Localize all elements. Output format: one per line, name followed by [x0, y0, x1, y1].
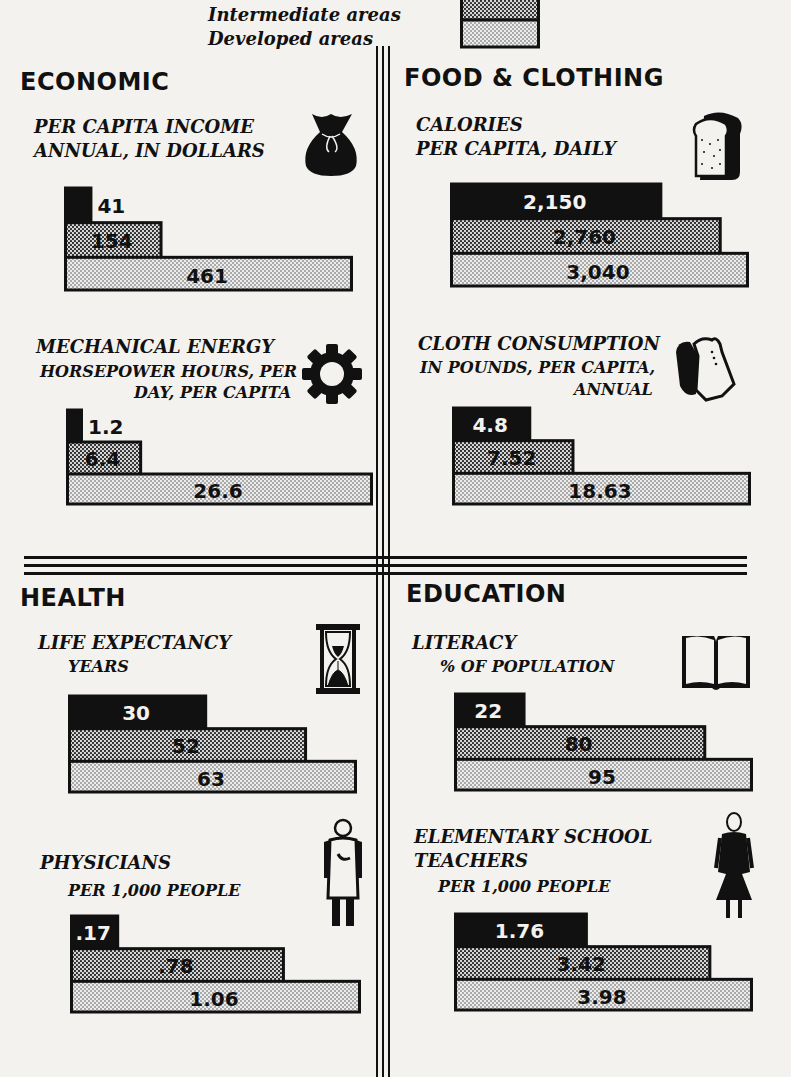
section-title-economic: ECONOMIC — [20, 68, 169, 96]
bar-label-underdeveloped: .17 — [75, 921, 110, 945]
physician-icon — [322, 818, 364, 928]
book-icon — [680, 632, 752, 694]
bar-label-intermediate: 7.52 — [487, 446, 536, 470]
bar-label-intermediate: .78 — [158, 954, 193, 978]
bar-underdeveloped — [68, 410, 82, 444]
section-title-health: HEALTH — [20, 584, 126, 612]
bar-label-underdeveloped: 4.8 — [472, 413, 507, 437]
metric-title-physicians: PHYSICIANS — [40, 852, 171, 874]
metric-subtitle-physicians: PER 1,000 PEOPLE — [68, 880, 240, 901]
bar-label-developed: 461 — [186, 264, 228, 288]
chart-teachers: 1.763.423.98 — [454, 912, 754, 1010]
legend-label-intermediate: Intermediate areas — [208, 4, 401, 26]
metric-subtitle-income: ANNUAL, IN DOLLARS — [34, 140, 265, 162]
bar-label-developed: 1.06 — [189, 987, 238, 1011]
metric-subtitle2-energy: DAY, PER CAPITA — [134, 382, 291, 403]
bar-label-underdeveloped: 30 — [122, 701, 150, 725]
legend-swatches — [460, 0, 540, 50]
bar-label-developed: 3.98 — [577, 985, 626, 1009]
bar-label-intermediate: 80 — [565, 732, 593, 756]
metric-title-energy: MECHANICAL ENERGY — [36, 336, 274, 358]
bar-label-intermediate: 154 — [91, 229, 133, 253]
metric-subtitle2-cloth: ANNUAL — [574, 379, 653, 400]
bar-label-intermediate: 3.42 — [556, 952, 605, 976]
metric-title-calories: CALORIES — [416, 114, 523, 136]
gear-icon — [300, 342, 364, 406]
bar-label-developed: 63 — [197, 767, 225, 791]
metric-subtitle-teachers: PER 1,000 PEOPLE — [438, 876, 610, 897]
chart-cloth: 4.87.5218.63 — [452, 406, 752, 504]
bar-label-underdeveloped: 2,150 — [523, 190, 586, 214]
bar-label-intermediate: 2,760 — [553, 225, 616, 249]
bar-label-developed: 3,040 — [566, 260, 629, 284]
clothing-icon — [672, 334, 738, 404]
metric-subtitle-calories: PER CAPITA, DAILY — [416, 138, 616, 160]
metric-title-life: LIFE EXPECTANCY — [38, 632, 231, 654]
bar-label-underdeveloped: 22 — [474, 699, 502, 723]
bread-icon — [690, 110, 744, 182]
bar-label-underdeveloped: 1.2 — [88, 415, 123, 439]
bar-underdeveloped — [66, 188, 91, 225]
teacher-icon — [712, 812, 756, 922]
metric-subtitle-life: YEARS — [68, 656, 129, 677]
chart-income: 41154461 — [64, 186, 354, 290]
metric-title2-teachers: TEACHERS — [414, 850, 528, 872]
chart-calories: 2,1502,7603,040 — [450, 182, 750, 286]
bar-label-intermediate: 6.4 — [85, 447, 120, 471]
legend-swatch-developed — [462, 20, 539, 47]
metric-subtitle-cloth: IN POUNDS, PER CAPITA, — [420, 357, 655, 378]
metric-subtitle-energy: HORSEPOWER HOURS, PER — [40, 361, 297, 382]
bar-label-intermediate: 52 — [172, 734, 200, 758]
bar-label-developed: 18.63 — [568, 479, 631, 503]
section-title-food-clothing: FOOD & CLOTHING — [404, 64, 664, 92]
bar-label-underdeveloped: 41 — [97, 194, 125, 218]
bar-label-developed: 26.6 — [193, 479, 242, 503]
metric-title-income: PER CAPITA INCOME — [34, 116, 254, 138]
section-title-education: EDUCATION — [406, 580, 566, 608]
legend-swatch-intermediate — [462, 0, 539, 20]
bar-label-developed: 95 — [588, 765, 616, 789]
metric-subtitle-literacy: % OF POPULATION — [440, 656, 614, 677]
chart-literacy: 228095 — [454, 692, 754, 790]
chart-energy: 1.26.426.6 — [66, 408, 374, 504]
metric-title-teachers: ELEMENTARY SCHOOL — [414, 826, 652, 848]
metric-title-literacy: LITERACY — [412, 632, 516, 654]
bar-label-underdeveloped: 1.76 — [495, 919, 544, 943]
hourglass-icon — [316, 624, 360, 694]
legend-label-developed: Developed areas — [208, 28, 373, 50]
chart-life: 305263 — [68, 694, 358, 792]
money-bag-icon — [302, 108, 360, 178]
metric-title-cloth: CLOTH CONSUMPTION — [418, 333, 660, 355]
chart-physicians: .17.781.06 — [70, 914, 362, 1012]
